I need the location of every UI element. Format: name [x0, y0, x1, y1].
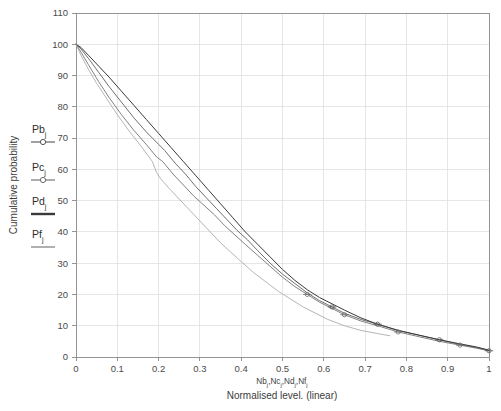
y-tick-label: 60 [57, 164, 68, 175]
legend-label-subscript: j [44, 203, 47, 211]
x-tick-label: 0.2 [152, 363, 165, 374]
legend-item-pf[interactable]: Pfj [31, 228, 55, 247]
x-tick-label: 0 [73, 363, 78, 374]
x-tick-label: 0.8 [400, 363, 413, 374]
y-tick-label: 90 [57, 70, 68, 81]
legend-label-main: Pc [32, 161, 44, 173]
x-tick-label: 0.6 [317, 363, 330, 374]
legend-label: Pfj [32, 228, 44, 244]
x-tick-label: 1 [486, 363, 491, 374]
chart-figure: 00.10.20.30.40.50.60.70.80.91 0102030405… [0, 0, 501, 411]
legend-label-subscript: j [44, 131, 47, 139]
legend-label-subscript: j [41, 236, 44, 244]
legend-item-pb[interactable]: Pbj [31, 123, 55, 145]
y-axis-title: Cumulative probability [8, 136, 19, 234]
y-tick-label: 20 [57, 289, 68, 300]
legend-label: Pcj [32, 161, 46, 177]
legend-item-pc[interactable]: Pcj [31, 161, 55, 183]
legend-label-main: Pf [32, 228, 42, 240]
y-tick-label: 80 [57, 101, 68, 112]
y-axis-tick-labels: 0102030405060708090100110 [52, 7, 68, 362]
x-tick-label: 0.9 [441, 363, 454, 374]
x-tick-label: 0.7 [358, 363, 371, 374]
chart-legend: PbjPcjPdjPfj [31, 123, 55, 247]
y-tick-label: 10 [57, 320, 68, 331]
x-title-subscript: j [305, 382, 307, 388]
x-tick-label: 0.3 [193, 363, 206, 374]
legend-label-main: Pb [32, 123, 45, 135]
y-tick-label: 70 [57, 132, 68, 143]
y-axis-ticks [72, 13, 76, 357]
legend-label: Pbj [32, 123, 47, 139]
x-tick-label: 0.1 [111, 363, 124, 374]
y-tick-label: 40 [57, 226, 68, 237]
y-tick-label: 50 [57, 195, 68, 206]
legend-swatch-circle [40, 177, 45, 182]
x-axis-secondary-title: Nbj,Ncj,Ndj,Nfj [256, 377, 307, 388]
y-tick-label: 0 [63, 351, 68, 362]
x-axis-ticks [76, 357, 489, 361]
legend-item-pd[interactable]: Pdj [31, 195, 55, 214]
legend-swatch-circle [40, 139, 45, 144]
x-title-token: Nd [284, 377, 295, 386]
x-axis-tick-labels: 00.10.20.30.40.50.60.70.80.91 [73, 363, 491, 374]
x-axis-title: Normalised level. (linear) [227, 390, 338, 401]
x-tick-label: 0.5 [276, 363, 289, 374]
y-tick-label: 100 [52, 39, 68, 50]
x-title-token: Nc [270, 377, 280, 386]
legend-label: Pdj [32, 195, 47, 211]
x-tick-label: 0.4 [235, 363, 248, 374]
cumulative-probability-chart: 00.10.20.30.40.50.60.70.80.91 0102030405… [0, 0, 501, 411]
legend-label-subscript: j [43, 169, 46, 177]
x-title-token: Nb [256, 377, 267, 386]
y-tick-label: 110 [53, 7, 68, 18]
x-axis-secondary-title-text: Nbj,Ncj,Ndj,Nfj [256, 377, 307, 388]
legend-label-main: Pd [32, 195, 45, 207]
y-tick-label: 30 [57, 258, 68, 269]
